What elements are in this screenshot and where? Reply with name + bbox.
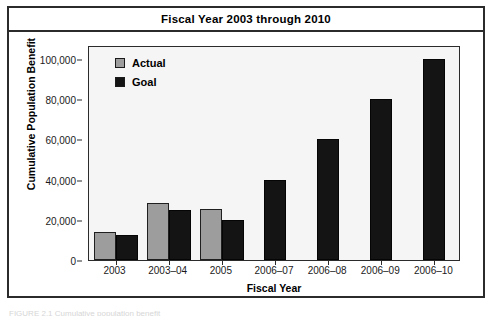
x-axis-tick-labels: 20032003–0420052006–072006–082006–092006…	[88, 265, 460, 281]
y-tick-label: 80,000	[45, 95, 76, 106]
bar-group-container	[89, 47, 459, 260]
x-tick-label: 2006–09	[361, 265, 400, 276]
figure-frame: Fiscal Year 2003 through 2010 Cumulative…	[7, 6, 485, 298]
y-axis-tick-labels: 020,00040,00060,00080,000100,000	[33, 46, 82, 261]
plot-area: Actual Goal	[88, 46, 460, 261]
y-tick-mark	[77, 140, 82, 141]
bar-goal	[264, 180, 286, 260]
figure-caption-clipped: FIGURE 2.1 Cumulative population benefit	[9, 309, 219, 316]
bar-goal	[222, 220, 244, 260]
y-tick-label: 60,000	[45, 135, 76, 146]
bar-goal	[317, 139, 339, 260]
chart-body: Cumulative Population Benefit 020,00040,…	[9, 32, 483, 296]
x-tick-label: 2003–04	[148, 265, 187, 276]
y-tick-mark	[77, 60, 82, 61]
x-tick-label: 2005	[210, 265, 232, 276]
x-tick-label: 2006–10	[414, 265, 453, 276]
chart-title-bar: Fiscal Year 2003 through 2010	[9, 8, 483, 32]
x-axis-title: Fiscal Year	[88, 282, 460, 294]
bar-goal	[169, 210, 191, 260]
bar-goal	[370, 99, 392, 260]
bar-goal	[116, 235, 138, 260]
page-title: Fiscal Year 2003 through 2010	[161, 13, 331, 25]
x-tick-label: 2006–08	[308, 265, 347, 276]
y-tick-mark	[77, 220, 82, 221]
y-tick-mark	[77, 100, 82, 101]
y-tick-label: 40,000	[45, 175, 76, 186]
x-tick-label: 2003	[103, 265, 125, 276]
bar-actual	[147, 203, 169, 260]
x-tick-label: 2006–07	[255, 265, 294, 276]
y-tick-label: 20,000	[45, 215, 76, 226]
y-tick-mark	[77, 261, 82, 262]
y-tick-label: 100,000	[40, 55, 76, 66]
y-tick-mark	[77, 180, 82, 181]
y-tick-label: 0	[70, 256, 76, 267]
bar-actual	[200, 209, 222, 260]
bar-actual	[94, 232, 116, 260]
bar-goal	[423, 59, 445, 260]
